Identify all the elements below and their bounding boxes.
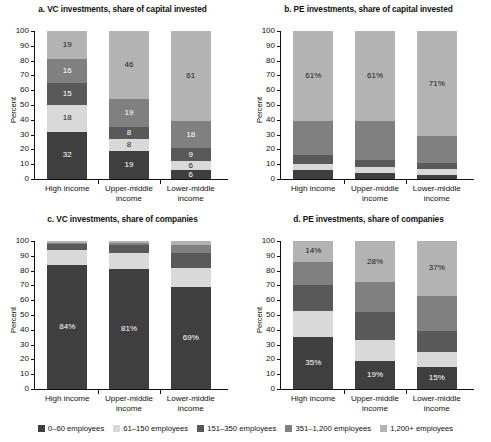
bar-segment-label: 84% [59, 323, 75, 331]
bar-segment-label: 6 [189, 162, 193, 170]
y-tick-label: 40 [255, 116, 275, 124]
y-tick-label: 100 [9, 27, 29, 35]
bar-segment: 32 [47, 132, 87, 179]
panel-title-b: b. PE investments, share of capital inve… [246, 4, 491, 14]
x-axis-separator [406, 180, 407, 184]
y-tick-label: 20 [9, 355, 29, 363]
bar-segment [293, 311, 333, 338]
x-category-label-line: Lower-middle [392, 184, 482, 194]
legend-label: 0–60 employees [48, 424, 104, 433]
legend-item[interactable]: 1,200+ employees [380, 424, 453, 433]
bar-segment: 35% [293, 337, 333, 389]
bar-segment [355, 121, 395, 159]
y-tick-label: 80 [9, 57, 29, 65]
bar-segment [417, 331, 457, 352]
bar-segment-label: 61% [305, 72, 321, 80]
y-tick-label: 60 [9, 296, 29, 304]
x-category-label: Lower-middleincome [146, 184, 236, 203]
bar-segment: 81% [109, 269, 149, 389]
bar-segment [355, 340, 395, 361]
bar-segment-label: 18 [63, 114, 72, 122]
y-tick-label: 100 [255, 237, 275, 245]
bar-segment [109, 241, 149, 242]
y-axis-line [280, 241, 281, 390]
bar-segment: 8 [109, 127, 149, 139]
bar-segment: 71% [417, 31, 457, 136]
bar-segment-label: 61% [367, 72, 383, 80]
y-tick-label: 40 [255, 326, 275, 334]
chart-panel-c: c. VC investments, share of companiesPer… [0, 214, 245, 419]
x-category-label: Lower-middleincome [146, 394, 236, 413]
y-tick-label: 30 [255, 131, 275, 139]
bar-segment-label: 71% [429, 80, 445, 88]
legend-item[interactable]: 61–150 employees [113, 424, 188, 433]
y-tick-label: 60 [9, 86, 29, 94]
bar-segment [171, 268, 211, 287]
bar-segment-label: 81% [121, 325, 137, 333]
bar-segment [417, 352, 457, 367]
bar-segment: 18 [171, 121, 211, 148]
stacked-bar: 71% [417, 31, 457, 179]
legend-label: 1,200+ employees [390, 424, 453, 433]
y-tick-label: 50 [255, 101, 275, 109]
x-category-label: Lower-middleincome [392, 184, 482, 203]
bar-segment: 9 [171, 148, 211, 161]
y-tick-label: 90 [9, 42, 29, 50]
y-tick-label: 60 [255, 296, 275, 304]
bar-segment-label: 46 [125, 61, 134, 69]
bar-segment: 6 [171, 170, 211, 179]
bar-segment [293, 121, 333, 155]
x-category-label-line: income [392, 404, 482, 414]
bar-segment: 28% [355, 241, 395, 282]
legend-swatch-icon [197, 425, 204, 432]
legend-item[interactable]: 151–350 employees [197, 424, 276, 433]
y-tick-label: 90 [255, 42, 275, 50]
legend-item[interactable]: 351–1,200 employees [285, 424, 371, 433]
figure-root: a. VC investments, share of capital inve… [0, 0, 491, 442]
bar-segment-label: 16 [63, 67, 72, 75]
panel-title-a: a. VC investments, share of capital inve… [0, 4, 245, 14]
y-tick-label: 10 [255, 370, 275, 378]
y-tick-label: 0 [255, 385, 275, 393]
y-tick-label: 20 [9, 145, 29, 153]
chart-panel-a: a. VC investments, share of capital inve… [0, 4, 245, 209]
y-tick-label: 60 [255, 86, 275, 94]
bar-segment [293, 155, 333, 164]
y-tick-label: 70 [255, 71, 275, 79]
legend-swatch-icon [38, 425, 45, 432]
bar-segment [355, 282, 395, 312]
bar-segment-label: 19 [125, 161, 134, 169]
bar-segment-label: 8 [127, 129, 131, 137]
bar-segment-label: 28% [367, 258, 383, 266]
stacked-bar: 69% [171, 241, 211, 389]
bar-segment-label: 19 [63, 41, 72, 49]
legend-swatch-icon [285, 425, 292, 432]
bar-segment-label: 15% [429, 374, 445, 382]
x-category-label-line: Lower-middle [392, 394, 482, 404]
y-tick-label: 90 [255, 252, 275, 260]
x-axis-line [280, 179, 474, 180]
legend-item[interactable]: 0–60 employees [38, 424, 104, 433]
stacked-bar: 19%28% [355, 241, 395, 389]
y-axis-line [34, 241, 35, 390]
legend-label: 61–150 employees [123, 424, 188, 433]
bar-segment: 19 [109, 99, 149, 127]
stacked-bar: 61% [293, 31, 333, 179]
bar-segment [171, 253, 211, 268]
bar-segment [417, 136, 457, 163]
y-tick-label: 100 [9, 237, 29, 245]
y-tick-label: 10 [255, 160, 275, 168]
bar-segment [171, 241, 211, 245]
panel-title-c: c. VC investments, share of companies [0, 214, 245, 224]
y-tick-label: 80 [255, 267, 275, 275]
bar-segment [109, 253, 149, 269]
bar-segment-label: 19 [125, 109, 134, 117]
bar-segment-label: 69% [183, 334, 199, 342]
bar-segment-label: 37% [429, 264, 445, 272]
y-tick-label: 30 [9, 131, 29, 139]
stacked-bar: 19881946 [109, 31, 149, 179]
y-tick-label: 10 [9, 160, 29, 168]
bar-segment [355, 167, 395, 173]
y-tick-label: 10 [9, 370, 29, 378]
y-axis-line [34, 31, 35, 180]
